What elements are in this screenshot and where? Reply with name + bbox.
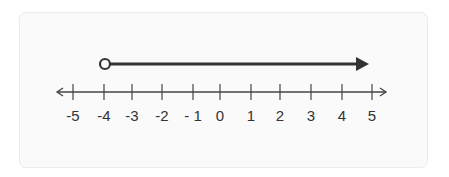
- tick-label: 2: [276, 107, 284, 124]
- tick-label: -3: [125, 107, 138, 124]
- ray-arrowhead-icon: [356, 57, 369, 71]
- tick-label: 1: [247, 107, 255, 124]
- tick-label: 4: [338, 107, 346, 124]
- tick-label: 0: [216, 107, 224, 124]
- tick-label: -4: [97, 107, 110, 124]
- tick-label: -2: [155, 107, 168, 124]
- tick-label: -5: [66, 107, 79, 124]
- tick-label: - 1: [184, 107, 202, 124]
- number-line-diagram: -5-4-3-2- 1012345: [0, 0, 449, 177]
- tick-label: 3: [307, 107, 315, 124]
- tick-label: 5: [368, 107, 376, 124]
- tick-group: -5-4-3-2- 1012345: [66, 84, 376, 124]
- open-endpoint-circle: [100, 59, 110, 69]
